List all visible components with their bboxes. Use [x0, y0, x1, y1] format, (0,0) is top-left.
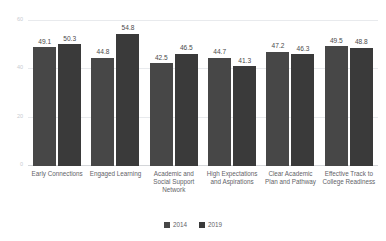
x-axis-category-label: Academic and Social Support Network [145, 170, 203, 195]
chart-legend: 20142019 [0, 222, 386, 228]
bar-wrapper: 49.5 [325, 21, 348, 166]
legend-item-2019[interactable]: 2019 [199, 222, 222, 228]
bar-wrapper: 44.7 [208, 21, 231, 166]
bar-value-label: 44.7 [213, 49, 226, 56]
bar-group: 49.548.8 [320, 21, 378, 166]
bar-wrapper: 46.5 [175, 21, 198, 166]
bar-group: 49.150.3 [28, 21, 86, 166]
bar-value-label: 47.2 [272, 43, 285, 50]
x-axis-category-labels: Early ConnectionsEngaged LearningAcademi… [28, 170, 378, 195]
bar-chart: 0204060 49.150.344.854.842.546.544.741.3… [0, 0, 386, 241]
bar-value-label: 48.8 [355, 39, 368, 46]
y-axis-tick-label: 60 [17, 17, 23, 23]
legend-item-2014[interactable]: 2014 [164, 222, 187, 228]
x-axis-category-label: High Expectations and Aspirations [203, 170, 261, 195]
bar-2014[interactable] [150, 63, 173, 166]
bar-wrapper: 44.8 [91, 21, 114, 166]
y-axis-tick-label: 0 [20, 162, 23, 168]
bar-value-label: 50.3 [63, 36, 76, 43]
bar-wrapper: 48.8 [350, 21, 373, 166]
legend-label: 2014 [173, 222, 187, 228]
bar-wrapper: 42.5 [150, 21, 173, 166]
bar-2014[interactable] [91, 58, 114, 166]
bar-wrapper: 50.3 [58, 21, 81, 166]
bar-value-label: 49.5 [330, 38, 343, 45]
bar-2014[interactable] [33, 47, 56, 166]
legend-swatch-icon [164, 222, 170, 228]
x-axis-category-label: Effective Track to College Readiness [320, 170, 378, 195]
bar-value-label: 49.1 [38, 39, 51, 46]
bar-wrapper: 54.8 [116, 21, 139, 166]
bar-wrapper: 46.3 [291, 21, 314, 166]
bar-value-label: 46.5 [180, 45, 193, 52]
bar-2014[interactable] [266, 52, 289, 166]
bar-value-label: 44.8 [97, 49, 110, 56]
bar-2019[interactable] [175, 54, 198, 166]
y-axis-tick-label: 20 [17, 114, 23, 120]
legend-label: 2019 [208, 222, 222, 228]
bar-2019[interactable] [233, 66, 256, 166]
bar-wrapper: 41.3 [233, 21, 256, 166]
bar-2019[interactable] [58, 44, 81, 166]
x-axis-category-label: Engaged Learning [86, 170, 144, 195]
bar-2014[interactable] [208, 58, 231, 166]
bar-value-label: 41.3 [238, 58, 251, 65]
bar-group: 44.854.8 [86, 21, 144, 166]
bar-group: 44.741.3 [203, 21, 261, 166]
legend-swatch-icon [199, 222, 205, 228]
bar-2019[interactable] [291, 54, 314, 166]
bar-wrapper: 49.1 [33, 21, 56, 166]
bar-value-label: 46.3 [297, 46, 310, 53]
bar-wrapper: 47.2 [266, 21, 289, 166]
bar-value-label: 54.8 [122, 25, 135, 32]
bar-2014[interactable] [325, 46, 348, 166]
x-axis-category-label: Clear Academic Plan and Pathway [261, 170, 319, 195]
bars-layer: 49.150.344.854.842.546.544.741.347.246.3… [28, 21, 378, 166]
bar-value-label: 42.5 [155, 55, 168, 62]
x-axis-category-label: Early Connections [28, 170, 86, 195]
y-axis-tick-label: 40 [17, 66, 23, 72]
plot-area: 0204060 49.150.344.854.842.546.544.741.3… [28, 21, 378, 166]
bar-group: 47.246.3 [261, 21, 319, 166]
bar-2019[interactable] [116, 34, 139, 166]
bar-2019[interactable] [350, 48, 373, 166]
bar-group: 42.546.5 [145, 21, 203, 166]
